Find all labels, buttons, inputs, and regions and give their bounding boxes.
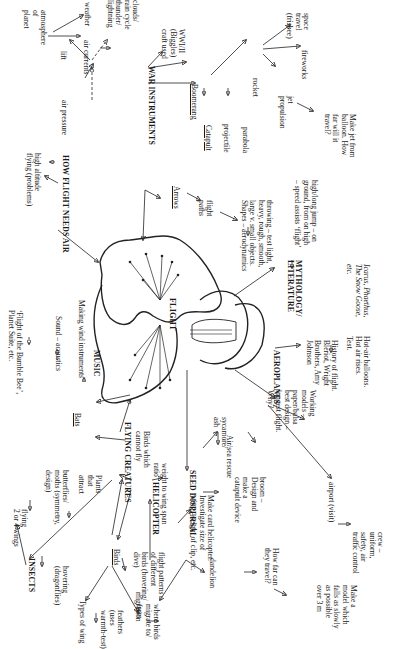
node-bats: Bats [73,413,81,427]
node-birds-cannot-fly: Birds which cannot fly [133,431,150,468]
hub-how-flight-needs-air: HOW FLIGHT NEEDS AIR [61,155,69,253]
node-wind-instruments: Making wind instruments [77,300,85,378]
node-throwing: throwing – test light, heavy, rough, smo… [239,200,273,271]
node-lift: lift [59,51,67,60]
node-rocket: rocket [251,78,259,97]
node-fireworks: fireworks [300,50,308,79]
node-jet-propulsion: jet propulsion [277,96,294,129]
node-high-altitude: high altitude flying (problems) [24,153,41,206]
node-air-currents: air currents [82,40,90,74]
center-flight-label: FLIGHT [168,298,176,330]
node-hot-air: Hot-air balloons. Hot air rises. Test. [345,336,370,387]
node-make-jet: Make jet from balloon. How far will it t… [322,114,356,157]
node-boomerang: Boomerang [190,84,198,119]
node-card-helicopter: Make card helicopter. Investigate size o… [189,495,214,571]
node-make-model: Make a model which falls as slowly as po… [315,585,357,628]
hub-war-instruments: WAR INSTRUMENTS [147,66,155,145]
node-types-of-wing: Types of wing [78,600,86,643]
node-high-long-jump: high/long jump – on ground, from on high… [293,180,318,248]
node-icarus: Icarus, Phaethus, The Snow Goose, etc. [345,264,370,317]
node-weight-wing-span: weight to wing span ratio [151,463,168,524]
node-catapult: Catapult [204,125,212,151]
node-flight-paths: flight paths [196,200,213,216]
hub-music: MUSIC [92,350,100,377]
node-history: History of flight. Blériot, Wright Broth… [304,340,338,391]
node-birds: Birds [112,549,120,565]
node-crew: crew – uniform, safety, air traffic cont… [350,532,384,574]
node-arrows: Arrows [172,186,180,209]
node-parabola: parabola [241,127,249,153]
node-where-birds: where birds migrate to/ from [135,604,160,640]
node-projectile: projectile [222,124,230,153]
node-bumble-bee: ‘Flight of the Bumble Bee’, Planet Suite… [6,310,23,394]
node-broom: broom – Design and make a catapult devic… [232,477,266,523]
node-air-pressure: air pressure [60,100,68,135]
node-clouds: clouds/ rain cycle thunder/ lightning [105,0,139,30]
hub-mythology-literature: MYTHOLOGY/ LITERATURE [285,260,302,316]
node-plants: Plants that attract [77,475,102,494]
node-air-sea-rescue: Air/sea rescue [225,435,233,478]
node-how-far: How far can they travel? [262,548,279,586]
node-butterflies: butterflies/ moths (symmetry, design) [44,470,69,525]
node-working-models: Working models – paper/balsa best design… [266,390,316,432]
hub-flying-creatures: FLYING CREATURES [123,422,131,503]
node-atmosphere: atmosphere of planet [22,10,47,45]
hub-insects: INSECTS [27,558,35,592]
node-flying-2-4: flying 2 or 4 wings [11,509,28,547]
node-weather: weather [83,2,91,26]
node-ww: WWI/II (Biggles) craft used [160,29,185,59]
node-hovering: hovering (dragonflies) [52,566,69,605]
node-airport: airport (visit) [327,482,335,522]
node-space-travel: space travel (frisbee) [285,13,310,39]
node-feathers: feathers (uses warmth-test) [99,610,124,649]
node-sound: Sound – acoustics [54,316,62,371]
